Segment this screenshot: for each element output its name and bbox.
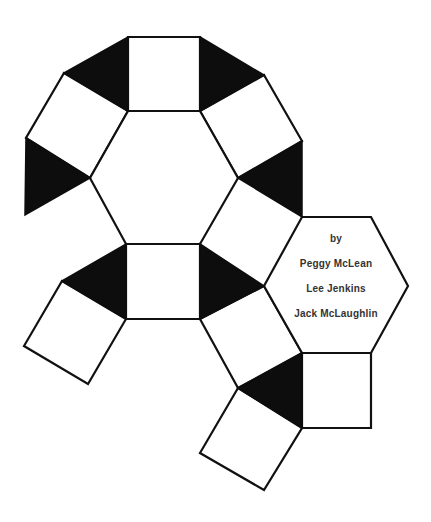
credit-by: by (330, 233, 342, 244)
credit-author-2: Lee Jenkins (306, 283, 366, 294)
lower-middle-square (126, 244, 200, 319)
bottom-right-square (302, 353, 371, 428)
polyhedron-net-diagram: by Peggy McLean Lee Jenkins Jack McLaugh… (0, 0, 431, 522)
top-square (128, 37, 200, 111)
credit-author-1: Peggy McLean (300, 258, 372, 269)
credit-author-3: Jack McLaughlin (294, 308, 378, 319)
